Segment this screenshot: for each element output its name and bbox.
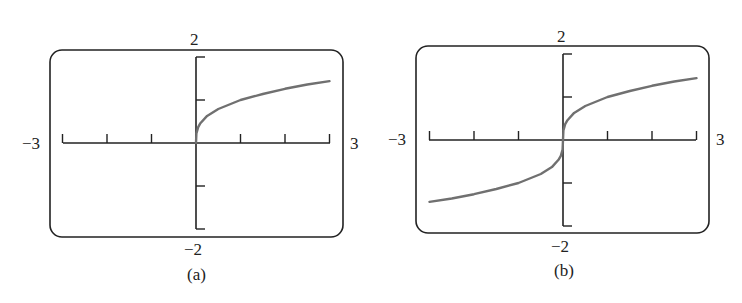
panel-b-caption: (b): [554, 262, 574, 279]
panel-b-ymin-label: −2: [551, 238, 569, 255]
panel-b-ymax-label: 2: [557, 28, 566, 45]
function-curve: [196, 81, 330, 143]
panel-a-caption: (a): [187, 266, 206, 283]
figure-canvas: [0, 0, 742, 303]
panel-b: [416, 46, 709, 233]
panel-a: [50, 50, 343, 237]
panel-a-xmax-label: 3: [350, 135, 359, 152]
panel-a-xmin-label: −3: [22, 135, 40, 152]
panel-b-xmin-label: −3: [388, 131, 406, 148]
panel-a-ymax-label: 2: [190, 31, 199, 48]
panel-b-xmax-label: 3: [716, 131, 725, 148]
panel-a-ymin-label: −2: [184, 241, 202, 258]
